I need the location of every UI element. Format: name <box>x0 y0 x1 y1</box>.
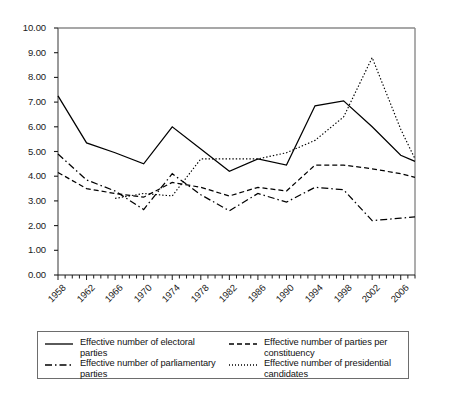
legend-label: Effective number of parliamentary partie… <box>80 358 220 380</box>
y-tick-label: 0.00 <box>6 270 46 280</box>
y-tick-label: 10.00 <box>6 23 46 33</box>
series-line-1 <box>58 165 415 197</box>
legend-swatch-dashed <box>228 338 258 349</box>
series-line-0 <box>58 96 415 171</box>
legend-item-electoral-parties: Effective number of electoral parties <box>44 337 220 359</box>
y-tick-label: 1.00 <box>6 245 46 255</box>
series-line-2 <box>58 154 415 221</box>
chart-legend: Effective number of electoral parties Ef… <box>37 331 409 379</box>
y-tick-label: 7.00 <box>6 97 46 107</box>
x-axis-tick-marks <box>58 275 415 280</box>
legend-swatch-dotted <box>228 359 258 370</box>
data-series-layer <box>58 58 415 221</box>
legend-label: Effective number of presidential candida… <box>264 358 406 380</box>
y-tick-label: 2.00 <box>6 221 46 231</box>
y-tick-label: 6.00 <box>6 122 46 132</box>
y-tick-label: 3.00 <box>6 196 46 206</box>
y-tick-label: 4.00 <box>6 171 46 181</box>
series-line-3 <box>115 58 415 199</box>
y-tick-label: 5.00 <box>6 147 46 157</box>
y-tick-label: 9.00 <box>6 48 46 58</box>
legend-item-parliamentary-parties: Effective number of parliamentary partie… <box>44 358 220 380</box>
y-tick-label: 8.00 <box>6 72 46 82</box>
legend-item-presidential-candidates: Effective number of presidential candida… <box>228 358 406 380</box>
legend-label: Effective number of electoral parties <box>80 337 220 359</box>
legend-swatch-solid <box>44 338 74 349</box>
legend-item-parties-per-constituency: Effective number of parties per constitu… <box>228 337 406 359</box>
legend-label: Effective number of parties per constitu… <box>264 337 406 359</box>
chart-container: 10.009.008.007.006.005.004.003.002.001.0… <box>0 0 449 402</box>
legend-swatch-dashdot <box>44 359 74 370</box>
